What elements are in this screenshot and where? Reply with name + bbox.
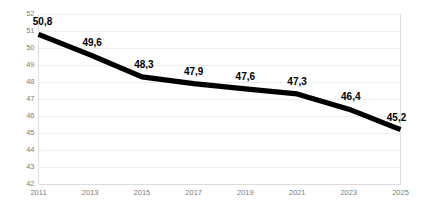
data-point-labels: 50,849,648,347,947,647,346,445,2 [33,16,407,122]
y-tick-label: 47 [26,94,34,103]
data-point-label: 47,3 [287,76,307,87]
x-tick-label: 2011 [30,188,46,197]
y-tick-label: 46 [26,111,34,120]
x-tick-label: 2019 [237,188,254,197]
data-point-label: 50,8 [33,16,53,27]
line-chart: 4243444546474849505152 20112013201520172… [0,0,430,209]
data-point-label: 45,2 [387,112,407,123]
x-tick-label: 2015 [134,188,151,197]
data-point-label: 49,6 [82,37,102,48]
x-tick-label: 2025 [392,188,409,197]
chart-canvas: 4243444546474849505152 20112013201520172… [0,0,430,209]
data-point-label: 48,3 [134,59,154,70]
y-tick-label: 43 [26,162,34,171]
y-tick-label: 45 [26,128,34,137]
data-point-label: 47,6 [236,71,256,82]
x-axis-tick-labels: 20112013201520172019202120232025 [30,188,408,197]
y-tick-label: 48 [26,77,34,86]
x-tick-label: 2017 [185,188,202,197]
y-axis-tick-labels: 4243444546474849505152 [26,9,34,188]
x-tick-label: 2013 [82,188,99,197]
x-tick-label: 2023 [340,188,357,197]
y-tick-label: 50 [26,43,34,52]
data-point-label: 47,9 [184,66,204,77]
y-tick-label: 44 [26,145,34,154]
x-tick-label: 2021 [289,188,306,197]
y-tick-label: 49 [26,60,34,69]
data-point-label: 46,4 [341,91,361,102]
